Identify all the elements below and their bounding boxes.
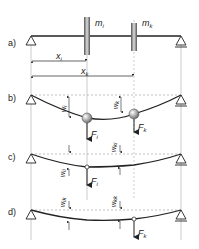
pin-support-icon <box>26 36 36 45</box>
deflection-wkk-label: wkk <box>110 195 118 207</box>
force-fi-label: Fi <box>91 176 99 187</box>
mass-disk-k <box>131 23 137 51</box>
deflected-shaft <box>31 95 181 119</box>
guide-lines <box>31 20 181 240</box>
distance-xi-label: xi <box>55 51 63 62</box>
panel-c-label: c) <box>8 152 16 162</box>
distance-xk-label: xk <box>80 66 90 77</box>
deflection-wk-label: wk <box>112 100 120 109</box>
force-fk-label: Fk <box>138 122 148 133</box>
beam-influence-diagram: a) mi mk xi xk b) Fi Fk wi wk c) <box>0 0 199 249</box>
panel-d-label: d) <box>8 207 16 217</box>
mass-k-ball <box>129 109 139 119</box>
panel-c: c) Fi wii wki <box>8 142 187 187</box>
deflection-wii-label: wii <box>59 169 67 177</box>
mass-i-label: mi <box>95 18 105 29</box>
panel-a-label: a) <box>8 38 16 48</box>
mass-k-label: mk <box>142 18 154 29</box>
mass-i-ball <box>82 113 92 123</box>
deflection-wik-label: wik <box>59 197 67 207</box>
roller-support-icon <box>175 36 187 47</box>
mass-disk-i <box>84 17 90 55</box>
panel-b-label: b) <box>8 93 16 103</box>
panel-b: b) Fi Fk wi wk <box>8 93 187 140</box>
deflection-wi-label: wi <box>60 105 68 112</box>
force-fi-label: Fi <box>91 129 99 140</box>
panel-d: d) Fk wik wkk <box>8 195 187 239</box>
deflection-wki-label: wki <box>110 142 118 152</box>
force-fk-label: Fk <box>138 228 148 239</box>
panel-a: a) mi mk xi xk <box>8 17 187 77</box>
